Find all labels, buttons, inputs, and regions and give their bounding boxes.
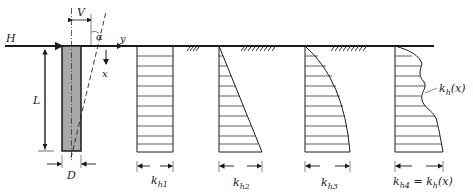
kh-leader — [425, 88, 437, 93]
l-label: L — [32, 94, 40, 107]
alpha-label: α — [96, 31, 103, 42]
kh-curve-label: kh(x) — [439, 82, 466, 97]
y-label: y — [119, 33, 126, 44]
distribution-arbitrary — [395, 46, 443, 152]
soil-hatch-1 — [187, 47, 199, 51]
kh3-label: kh3 — [321, 176, 338, 191]
distribution-uniform — [137, 46, 173, 152]
kh1-label: kh1 — [151, 174, 168, 189]
d-label: D — [66, 169, 76, 182]
distribution-parabolic — [305, 46, 350, 152]
h-label: H — [5, 32, 16, 45]
distribution-linear — [219, 46, 262, 152]
soil-hatch-2 — [241, 47, 275, 51]
kh2-label: kh2 — [233, 176, 250, 191]
soil-hatch-3 — [331, 47, 366, 51]
x-label: x — [102, 68, 108, 79]
pile-diagram: H V α y x L D kh1 kh2 — [0, 0, 473, 193]
v-label: V — [77, 6, 86, 19]
kh4-label: kh4 = kh(x) — [393, 175, 453, 190]
